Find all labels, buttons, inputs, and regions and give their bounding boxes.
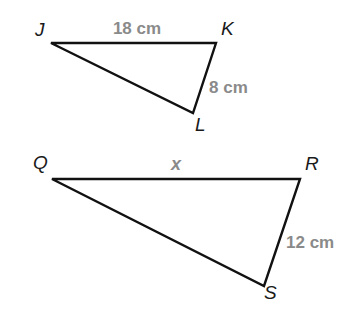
vertex-label-k: K xyxy=(221,18,235,39)
side-jk-length: 18 cm xyxy=(113,19,161,38)
side-rs-length: 12 cm xyxy=(286,233,334,252)
side-kl-length: 8 cm xyxy=(209,78,248,97)
vertex-label-l: L xyxy=(195,114,206,135)
vertex-label-j: J xyxy=(34,19,45,40)
triangle-jkl-outline xyxy=(51,43,216,113)
side-qr-unknown: x xyxy=(170,154,182,174)
triangle-jkl: J K L 18 cm 8 cm xyxy=(34,18,248,135)
vertex-label-q: Q xyxy=(33,152,48,173)
similar-triangles-diagram: J K L 18 cm 8 cm Q R S x 12 cm xyxy=(0,0,355,320)
triangle-qrs: Q R S x 12 cm xyxy=(33,152,334,303)
vertex-label-r: R xyxy=(305,153,319,174)
triangle-qrs-outline xyxy=(52,179,300,286)
vertex-label-s: S xyxy=(264,282,277,303)
